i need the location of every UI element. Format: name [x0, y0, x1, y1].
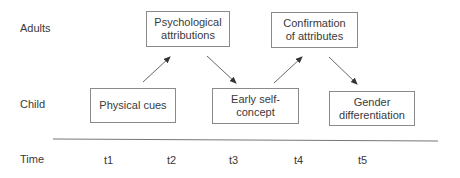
arrow-physical-to-psychological	[143, 57, 170, 82]
diagram-connectors	[0, 0, 460, 178]
arrow-confirmation-to-gender	[329, 57, 357, 84]
time-tick-t5: t5	[358, 154, 367, 166]
arrow-selfconcept-to-confirmation	[274, 57, 302, 83]
arrow-psychological-to-selfconcept	[207, 56, 236, 83]
time-tick-t4: t4	[294, 154, 303, 166]
time-tick-t3: t3	[229, 154, 238, 166]
time-tick-t2: t2	[167, 154, 176, 166]
time-axis-line	[53, 139, 438, 141]
time-tick-t1: t1	[104, 154, 113, 166]
